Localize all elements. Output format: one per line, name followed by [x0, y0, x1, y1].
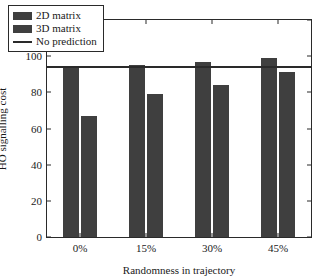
y-tick-label: 0 [37, 232, 43, 243]
x-axis-label: Randomness in trajectory [123, 264, 235, 276]
y-tick-mark [307, 164, 311, 165]
y-tick-label: 100 [26, 51, 43, 62]
legend-line-icon [13, 41, 32, 43]
bar [129, 65, 145, 237]
y-tick-mark [307, 200, 311, 201]
bar [63, 67, 79, 237]
no-prediction-line [47, 66, 311, 68]
y-tick-mark [307, 20, 311, 21]
bar [81, 116, 97, 237]
legend-item-label: 2D matrix [36, 10, 81, 21]
legend-item: 2D matrix [13, 9, 97, 22]
bar [147, 94, 163, 237]
y-tick-mark [307, 237, 311, 238]
x-tick-label: 15% [136, 243, 156, 254]
y-tick-mark [47, 200, 51, 201]
legend-item: No prediction [13, 35, 97, 48]
bar [195, 62, 211, 237]
legend: 2D matrix3D matrixNo prediction [8, 5, 104, 52]
y-tick-mark [307, 92, 311, 93]
bar [261, 58, 277, 237]
x-tick-mark [146, 20, 147, 24]
y-tick-mark [47, 92, 51, 93]
x-tick-label: 0% [73, 243, 88, 254]
y-tick-mark [307, 56, 311, 57]
y-tick-label: 20 [31, 195, 42, 206]
y-tick-mark [47, 164, 51, 165]
x-tick-mark [278, 20, 279, 24]
y-tick-label: 80 [31, 87, 42, 98]
legend-swatch-icon [13, 12, 32, 20]
legend-swatch-icon [13, 25, 32, 33]
y-tick-mark [47, 128, 51, 129]
bar [279, 72, 295, 237]
bar [213, 85, 229, 237]
y-tick-label: 60 [31, 123, 42, 134]
y-tick-mark [47, 237, 51, 238]
y-tick-mark [47, 56, 51, 57]
x-tick-label: 45% [268, 243, 288, 254]
legend-item: 3D matrix [13, 22, 97, 35]
x-tick-label: 30% [202, 243, 222, 254]
legend-item-label: 3D matrix [36, 23, 81, 34]
y-tick-mark [307, 128, 311, 129]
x-tick-mark [212, 20, 213, 24]
y-tick-label: 40 [31, 159, 42, 170]
figure: HO signalling cost Randomness in traject… [0, 0, 329, 279]
legend-item-label: No prediction [36, 36, 97, 47]
y-axis-label: HO signalling cost [0, 88, 8, 171]
